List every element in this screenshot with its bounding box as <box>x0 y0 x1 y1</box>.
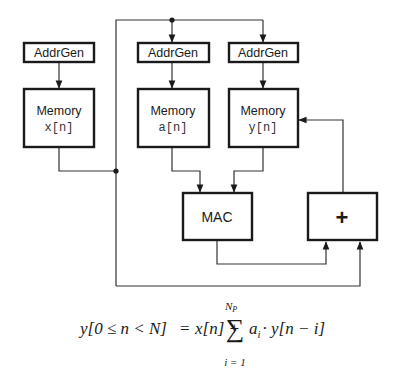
formula-sum-upper: NP <box>224 300 237 314</box>
addrgen-a-block: AddrGen <box>138 43 209 62</box>
mac-block: MAC <box>183 193 252 240</box>
memory-x-block: Memory x[n] <box>24 89 94 147</box>
formula-lhs-text: y[0 ≤ n < N] <box>78 319 167 338</box>
formula-sum-upper-sub: P <box>231 305 237 314</box>
addrgen-x-label: AddrGen <box>34 46 84 60</box>
memory-a-block: Memory a[n] <box>138 89 209 147</box>
formula-sum-lower: i = 1 <box>224 356 245 368</box>
formula-summand-rest: · y[n − i] <box>263 319 325 338</box>
wire-memory-x-out <box>59 148 116 171</box>
memory-a-signal: a[n] <box>159 121 188 135</box>
signal-flow-diagram: AddrGen AddrGen AddrGen Memory x[n] Memo… <box>0 0 397 378</box>
wire-memory-a-to-mac <box>172 148 200 192</box>
wire-mac-to-adder <box>217 241 326 264</box>
formula-sum-symbol: ∑ <box>226 314 245 343</box>
formula-summand: ai· y[n − i] <box>249 319 325 340</box>
memory-y-block: Memory y[n] <box>229 89 298 147</box>
wire-adder-feedback <box>299 120 343 193</box>
formula-equals: = <box>180 319 190 338</box>
formula-lhs: y[0 ≤ n < N] <box>78 319 167 338</box>
addrgen-x-block: AddrGen <box>24 43 94 62</box>
junction-left <box>113 168 118 173</box>
addrgen-y-label: AddrGen <box>238 46 288 60</box>
mac-label: MAC <box>201 209 232 225</box>
memory-y-label: Memory <box>240 104 286 118</box>
adder-label: + <box>336 205 349 230</box>
formula: y[0 ≤ n < N] = x[n] + ∑ NP i = 1 ai· y[n… <box>78 300 325 368</box>
addrgen-y-block: AddrGen <box>229 43 298 62</box>
memory-x-label: Memory <box>36 104 82 118</box>
junction-top <box>169 17 174 22</box>
adder-block: + <box>308 193 377 240</box>
memory-a-label: Memory <box>150 104 196 118</box>
addrgen-a-label: AddrGen <box>148 46 198 60</box>
wire-memory-y-to-mac <box>234 148 263 192</box>
memory-x-signal: x[n] <box>45 121 74 135</box>
memory-y-signal: y[n] <box>249 121 278 135</box>
formula-summand-a: a <box>249 319 258 338</box>
formula-summand-a-sub: i <box>258 328 261 340</box>
